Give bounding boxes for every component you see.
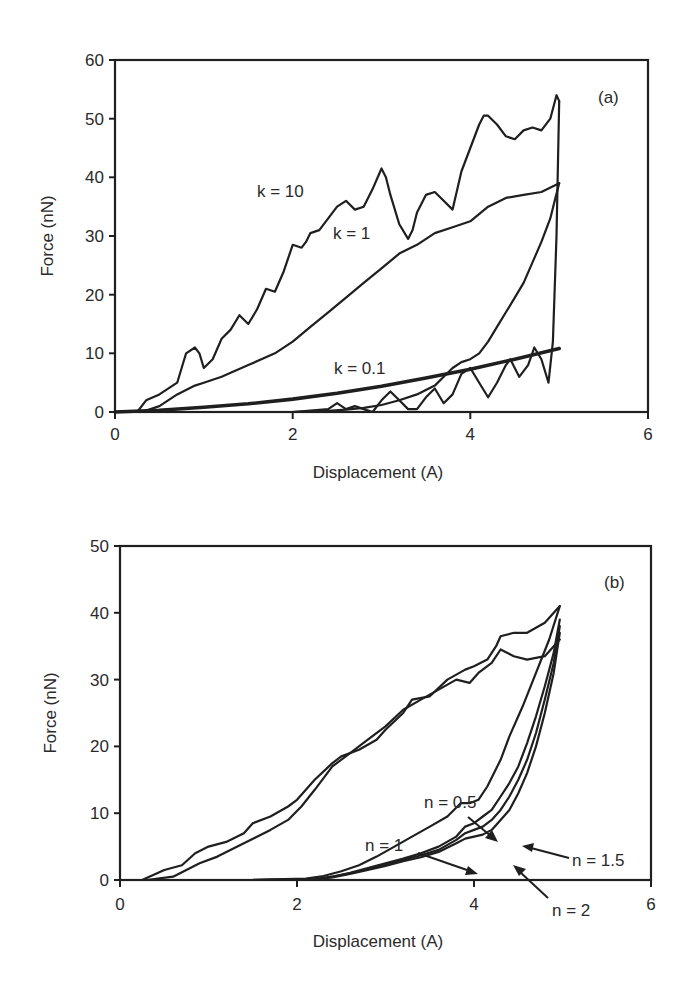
x-tick-label: 4 — [466, 425, 475, 444]
x-tick-label: 6 — [643, 425, 652, 444]
x-tick-label: 0 — [110, 425, 119, 444]
y-tick-label: 30 — [85, 227, 104, 246]
x-axis-title-b: Displacement (A) — [313, 932, 443, 951]
y-tick-label: 40 — [90, 604, 109, 623]
y-tick-label: 10 — [90, 804, 109, 823]
y-axis-title-a: Force (nN) — [38, 195, 57, 276]
annotation-n1: n = 1 — [365, 836, 403, 855]
y-tick-label: 0 — [95, 403, 104, 422]
y-tick-label: 50 — [90, 537, 109, 556]
y-tick-label: 50 — [85, 110, 104, 129]
arrow-n15 — [531, 848, 569, 858]
x-axis-title-a: Displacement (A) — [313, 463, 443, 482]
arrow-n2 — [520, 872, 548, 898]
y-tick-label: 10 — [85, 344, 104, 363]
x-axis-a: 0 2 4 6 Displacement (A) — [110, 412, 652, 482]
x-tick-label: 2 — [288, 425, 297, 444]
annotation-k1: k = 1 — [333, 224, 370, 243]
series-line — [120, 640, 560, 881]
x-tick-label: 0 — [115, 895, 124, 914]
panel-label-b: (b) — [604, 573, 625, 592]
y-tick-label: 60 — [85, 51, 104, 70]
arrowhead-icon — [465, 866, 478, 875]
annotation-n05: n = 0.5 — [424, 793, 476, 812]
panel-label-a: (a) — [598, 88, 619, 107]
x-tick-label: 4 — [469, 895, 478, 914]
panel-a: 0 10 20 30 40 50 60 Force (nN) 0 2 4 6 D… — [38, 51, 653, 482]
x-tick-label: 6 — [646, 895, 655, 914]
annotation-k01: k = 0.1 — [334, 359, 386, 378]
annotation-k10: k = 10 — [257, 182, 304, 201]
arrowhead-icon — [513, 865, 526, 876]
plot-area-b — [120, 546, 651, 880]
y-axis-title-b: Force (nN) — [41, 672, 60, 753]
arrow-n1 — [418, 853, 467, 870]
figure: 0 10 20 30 40 50 60 Force (nN) 0 2 4 6 D… — [0, 0, 691, 994]
annotation-n15: n = 1.5 — [572, 851, 624, 870]
y-tick-label: 0 — [100, 871, 109, 890]
y-axis-b: 0 10 20 30 40 50 Force (nN) — [41, 537, 120, 890]
y-axis-a: 0 10 20 30 40 50 60 Force (nN) — [38, 51, 115, 422]
y-tick-label: 20 — [90, 737, 109, 756]
y-tick-label: 20 — [85, 286, 104, 305]
y-tick-label: 30 — [90, 671, 109, 690]
annotation-n2: n = 2 — [552, 901, 590, 920]
panel-b: 0 10 20 30 40 50 Force (nN) 0 2 4 6 Disp… — [41, 537, 656, 951]
y-tick-label: 40 — [85, 168, 104, 187]
x-tick-label: 2 — [292, 895, 301, 914]
arrowhead-icon — [522, 843, 534, 852]
